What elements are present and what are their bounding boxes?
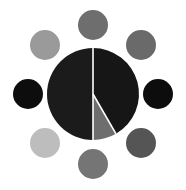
satellite-marker-bottom-left [30, 128, 60, 158]
pie-wedge-group [47, 48, 139, 140]
satellite-marker-left [13, 79, 43, 109]
satellite-marker-top [78, 10, 108, 40]
satellite-marker-right [143, 79, 173, 109]
chart-canvas [0, 0, 186, 190]
satellite-marker-top-right [126, 30, 156, 60]
satellite-marker-bottom-right [126, 128, 156, 158]
satellite-marker-top-left [30, 30, 60, 60]
pie-chart-figure [0, 0, 186, 190]
satellite-marker-bottom [78, 149, 108, 179]
